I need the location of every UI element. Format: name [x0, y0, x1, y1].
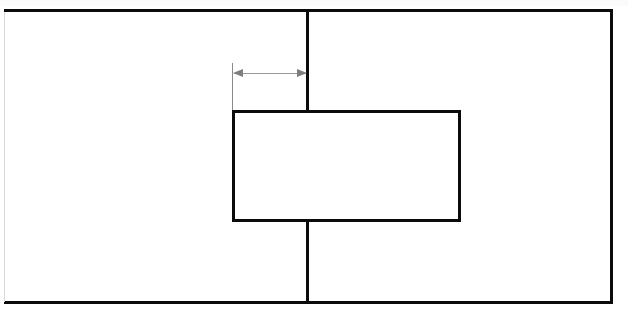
drawing-canvas: [0, 0, 628, 315]
dimension-arrow-left-icon: [233, 69, 243, 77]
outer-left-edge: [4, 12, 5, 302]
dimension-arrow-right-icon: [297, 69, 307, 77]
dimension-line: [234, 73, 306, 74]
outer-right-edge: [610, 9, 613, 304]
page-grain: [0, 0, 628, 6]
center-line-upper-segment: [306, 9, 309, 110]
inner-rectangle: [232, 110, 461, 222]
center-line-lower-segment: [306, 222, 309, 304]
